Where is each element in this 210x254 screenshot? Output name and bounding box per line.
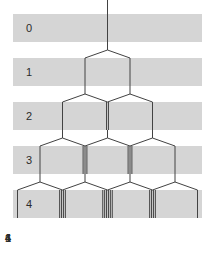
row-label-2: 2 (20, 109, 38, 123)
galton-board-diagram: 0 1 2 3 4 1 4 6 4 1 (0, 0, 210, 254)
row-label-0: 0 (20, 21, 38, 35)
row-label-3: 3 (20, 153, 38, 167)
coefficient-label-4: 1 (0, 230, 16, 246)
row-label-4: 4 (20, 197, 38, 211)
row-label-1: 1 (20, 65, 38, 79)
pascal-paths-lattice (0, 0, 210, 254)
